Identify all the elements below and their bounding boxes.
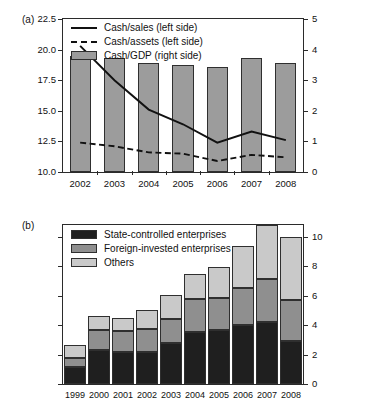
y-tick-left <box>58 384 62 385</box>
y-tick-right <box>304 384 308 385</box>
legend-item-state-controlled: State-controlled enterprises <box>71 228 231 241</box>
x-tick <box>166 171 167 175</box>
segment-0-2004 <box>184 332 207 384</box>
legend-label-state-controlled: State-controlled enterprises <box>104 229 226 240</box>
stacked-bar-2002 <box>136 310 159 384</box>
x-tick <box>234 171 235 175</box>
y-tick-label-left: 20.0 <box>20 44 56 55</box>
segment-2-2002 <box>136 310 159 329</box>
y-tick-label-right: 1 <box>312 135 334 146</box>
segment-2-2001 <box>112 318 135 331</box>
legend-swatch-state-controlled <box>71 230 97 239</box>
y-tick-right <box>304 19 308 20</box>
y-tick-right <box>304 50 308 51</box>
legend-line-dashed-icon <box>71 37 97 46</box>
legend-label-cash-assets: Cash/assets (left side) <box>104 36 203 47</box>
panel-a-legend: Cash/sales (left side) Cash/assets (left… <box>71 21 203 63</box>
y-tick-left <box>58 296 62 297</box>
segment-0-2006 <box>232 325 255 384</box>
y-tick-label-right: 0 <box>312 166 334 177</box>
y-tick-right <box>304 266 308 267</box>
segment-2-1999 <box>64 345 87 358</box>
stacked-bar-2007 <box>256 225 279 384</box>
legend-label-others: Others <box>104 257 134 268</box>
x-tick <box>200 171 201 175</box>
segment-2-2008 <box>280 237 303 300</box>
y-tick-label-right: 6 <box>312 290 334 301</box>
legend-item-foreign-invested: Foreign-invested enterprises <box>71 242 231 255</box>
segment-0-2001 <box>112 352 135 384</box>
stacked-bar-2004 <box>184 274 207 384</box>
segment-0-2005 <box>208 330 231 384</box>
chart-panel-b: (b) State-controlled enterprises Foreign… <box>0 205 366 415</box>
y-tick-label-right: 4 <box>312 319 334 330</box>
stacked-bar-2003 <box>160 295 183 384</box>
line-cash-assets <box>80 143 286 161</box>
legend-item-cash-assets: Cash/assets (left side) <box>71 35 203 48</box>
segment-2-2006 <box>232 246 255 288</box>
legend-label-cash-sales: Cash/sales (left side) <box>104 22 197 33</box>
y-tick-label-right: 4 <box>312 44 334 55</box>
y-tick-right <box>304 80 308 81</box>
legend-line-solid-icon <box>71 23 97 32</box>
legend-item-others: Others <box>71 256 231 269</box>
segment-2-2004 <box>184 274 207 299</box>
y-tick-right <box>304 325 308 326</box>
y-tick-right <box>304 355 308 356</box>
stacked-bar-1999 <box>64 345 87 384</box>
y-tick-label-left: 17.5 <box>20 74 56 85</box>
stacked-bar-2006 <box>232 246 255 384</box>
legend-swatch-foreign-invested <box>71 244 97 253</box>
y-tick-left <box>58 237 62 238</box>
legend-swatch-others <box>71 258 97 267</box>
y-tick-left <box>58 355 62 356</box>
y-tick-right <box>304 237 308 238</box>
y-tick-label-right: 8 <box>312 260 334 271</box>
segment-1-2003 <box>160 319 183 343</box>
x-tick-label-2008: 2008 <box>264 178 308 189</box>
y-tick-label-right: 0 <box>312 378 334 389</box>
y-tick-label-right: 2 <box>312 349 334 360</box>
segment-0-1999 <box>64 367 87 384</box>
y-tick-label-left: 12.5 <box>20 135 56 146</box>
segment-1-2007 <box>256 279 279 322</box>
y-tick-right <box>304 141 308 142</box>
stacked-bar-2008 <box>280 237 303 384</box>
y-tick-right <box>304 296 308 297</box>
segment-2-2003 <box>160 295 183 319</box>
legend-label-foreign-invested: Foreign-invested enterprises <box>104 243 231 254</box>
x-tick-label-2008: 2008 <box>274 390 308 400</box>
y-tick-label-left: 10.0 <box>20 166 56 177</box>
stacked-bar-2000 <box>88 316 111 384</box>
segment-2-2000 <box>88 316 111 330</box>
legend-swatch-cash-gdp <box>71 51 97 60</box>
y-tick-left <box>58 111 62 112</box>
stacked-bar-2005 <box>208 267 231 384</box>
panel-b-label: (b) <box>22 220 34 231</box>
panel-a-plot-area: Cash/sales (left side) Cash/assets (left… <box>62 18 304 173</box>
segment-0-2007 <box>256 322 279 384</box>
y-tick-left <box>58 50 62 51</box>
segment-1-2005 <box>208 298 231 330</box>
y-tick-label-right: 10 <box>312 231 334 242</box>
y-tick-left <box>58 266 62 267</box>
figure-container: (a) Cash/sales (left side) Cash/assets (… <box>0 0 366 415</box>
x-tick <box>132 171 133 175</box>
x-tick <box>97 171 98 175</box>
segment-0-2003 <box>160 343 183 384</box>
segment-1-2008 <box>280 300 303 340</box>
y-tick-right <box>304 172 308 173</box>
segment-1-1999 <box>64 358 87 367</box>
y-tick-label-left: 15.0 <box>20 105 56 116</box>
segment-0-2002 <box>136 352 159 384</box>
legend-item-cash-gdp: Cash/GDP (right side) <box>71 49 203 62</box>
panel-b-legend: State-controlled enterprises Foreign-inv… <box>71 228 231 270</box>
segment-1-2006 <box>232 288 255 326</box>
y-tick-left <box>58 141 62 142</box>
y-tick-left <box>58 80 62 81</box>
y-tick-left <box>58 325 62 326</box>
y-tick-label-right: 5 <box>312 13 334 24</box>
y-tick-left <box>58 172 62 173</box>
segment-2-2005 <box>208 267 231 298</box>
stacked-bar-2001 <box>112 318 135 384</box>
